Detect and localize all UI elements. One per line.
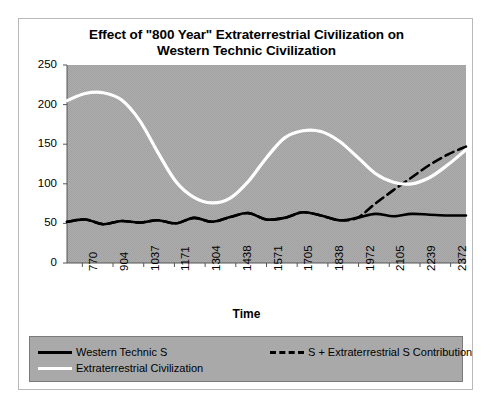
y-axis-tick-label: 150: [27, 137, 57, 149]
x-axis-tick-label: 770: [87, 252, 99, 271]
x-axis-tick-label: 1304: [210, 245, 222, 271]
plot-background: [67, 65, 466, 263]
x-axis-title: Time: [19, 307, 474, 321]
legend-label-extraterrestrial-civilization: Extraterrestrial Civilization: [76, 362, 203, 374]
x-axis-tick-label: 2239: [425, 245, 437, 271]
x-axis-tick-label: 1571: [272, 245, 284, 271]
legend-label-s-plus-extraterrestrial: S + Extraterrestrial S Contribution: [308, 346, 472, 358]
x-axis-tick-label: 1037: [149, 245, 161, 271]
x-axis-tick-label: 2372: [456, 245, 468, 271]
x-axis-tick-label: 904: [118, 252, 130, 271]
chart-frame: Effect of "800 Year" Extraterrestrial Ci…: [18, 18, 473, 390]
x-axis-tick-label: 1838: [333, 245, 345, 271]
legend-label-western-technic-s: Western Technic S: [76, 346, 167, 358]
y-axis-ticks: [63, 65, 67, 263]
x-axis-tick-label: 1972: [364, 245, 376, 271]
legend-swatch-solid-white: [38, 367, 72, 370]
chart-legend: Western Technic S Extraterrestrial Civil…: [29, 336, 463, 382]
y-axis-tick-label: 100: [27, 177, 57, 189]
legend-swatch-solid-black: [38, 351, 72, 354]
x-axis-tick-label: 2105: [394, 245, 406, 271]
x-axis-tick-label: 1171: [179, 246, 191, 271]
y-axis-tick-label: 50: [27, 216, 57, 228]
legend-swatch-dashed-black: [270, 351, 304, 354]
y-axis-tick-label: 200: [27, 98, 57, 110]
x-axis-tick-label: 1705: [302, 245, 314, 271]
y-axis-tick-label: 0: [27, 256, 57, 268]
y-axis-tick-label: 250: [27, 58, 57, 70]
x-axis-tick-label: 1438: [241, 245, 253, 271]
